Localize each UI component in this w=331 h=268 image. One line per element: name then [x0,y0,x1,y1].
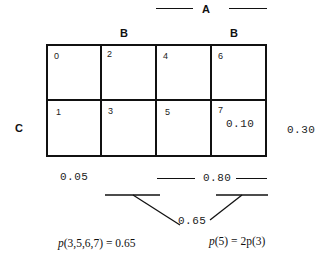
a-cols-probability: 0.80 [203,172,231,184]
equation-right: p(5) = 2p(3) [209,235,265,247]
a-bar-left [156,8,193,9]
cell-0-label: 0 [54,51,59,61]
c-row-probability: 0.30 [287,124,315,136]
cell-2-label: 2 [107,49,112,59]
merge-connector [100,190,275,235]
label-b-left: B [120,27,128,39]
a-cols-bar-left [157,178,195,179]
equation-left: p(3,5,6,7) = 0.65 [58,237,135,249]
cell-3-label: 3 [108,106,113,116]
a-bar-right [229,8,267,9]
equation-left-text: (3,5,6,7) = 0.65 [64,237,136,249]
label-c: C [15,122,23,134]
a-cols-bar-right [236,178,267,179]
cell-7-label: 7 [218,105,223,115]
merged-probability: 0.65 [178,215,206,227]
equation-right-text: (5) = 2p(3) [215,235,266,247]
cell-0-probability: 0.05 [60,171,88,183]
cell-4-label: 4 [163,51,168,61]
cell-5-label: 5 [165,107,170,117]
cell-7-value: 0.10 [226,118,254,130]
label-b-right: B [230,27,238,39]
cell-6-label: 6 [218,51,223,61]
cell-1-label: 1 [56,107,61,117]
label-a: A [202,3,210,15]
karnaugh-grid [46,44,267,157]
